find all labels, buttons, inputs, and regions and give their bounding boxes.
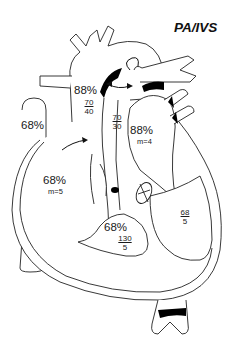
lv-pressure-systolic: 68 (179, 208, 191, 217)
aorta-pressure-diastolic: 40 (82, 107, 96, 116)
la-mean-pressure-label: m=4 (137, 138, 152, 146)
pda-pressure-label: 70 30 (110, 113, 124, 131)
la-saturation-label: 88% (130, 125, 153, 137)
ivc-saturation-label: 68% (21, 120, 44, 132)
ra-saturation-label: 68% (43, 175, 66, 187)
aorta-pressure-label: 70 40 (82, 98, 96, 116)
lv-pressure-diastolic: 5 (179, 217, 191, 226)
right-pulmonary-artery (40, 76, 72, 88)
rv-saturation-label: 68% (104, 222, 127, 234)
heart-diagram (0, 0, 241, 360)
aorta-pressure-systolic: 70 (82, 98, 96, 107)
pda-pressure-diastolic: 30 (110, 122, 124, 131)
aorta-saturation-label: 88% (74, 85, 97, 97)
lv-pressure-label: 68 5 (179, 208, 191, 226)
rv-pressure-label: 130 5 (117, 234, 133, 252)
pulmonary-vein-lower (170, 106, 194, 124)
rv-pressure-systolic: 130 (117, 234, 133, 243)
pda-pressure-systolic: 70 (110, 113, 124, 122)
diagram-title: PA/IVS (174, 20, 217, 35)
rv-pressure-diastolic: 5 (117, 243, 133, 252)
ra-mean-pressure-label: m=5 (48, 188, 63, 196)
descending-aorta (152, 300, 189, 334)
atretic-valve (111, 187, 119, 193)
